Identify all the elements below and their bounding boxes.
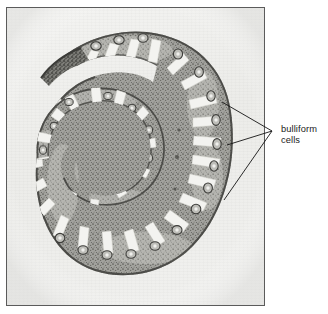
bulliform-label-line1: bulliform — [281, 124, 317, 135]
leaf-cross-section-image — [7, 8, 264, 305]
bulliform-cells-label: bulliform cells — [281, 124, 317, 147]
figure-root: bulliform cells — [0, 0, 328, 314]
bulliform-label-line2: cells — [281, 135, 317, 146]
leaf-tip — [41, 48, 89, 86]
micrograph-panel — [6, 7, 265, 306]
